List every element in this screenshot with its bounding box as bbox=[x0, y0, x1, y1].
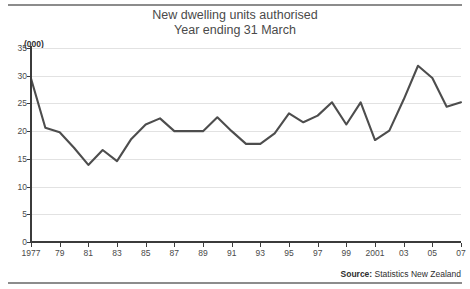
y-axis-tick-label: 20 bbox=[5, 126, 27, 136]
x-axis-tickmark bbox=[375, 243, 376, 247]
y-axis-tick-label: 25 bbox=[5, 98, 27, 108]
x-axis-tick-label: 93 bbox=[256, 248, 265, 258]
x-axis-tickmark bbox=[117, 243, 118, 247]
y-axis-tickmark bbox=[27, 131, 31, 132]
x-axis-tickmark bbox=[432, 243, 433, 247]
y-axis-tickmark bbox=[27, 187, 31, 188]
y-axis-tick-label: 35 bbox=[5, 43, 27, 53]
x-axis-tickmark bbox=[60, 243, 61, 247]
series-polyline bbox=[31, 66, 461, 165]
x-axis-tick-label: 89 bbox=[198, 248, 207, 258]
x-axis-tick-label: 97 bbox=[313, 248, 322, 258]
y-axis-tickmark bbox=[27, 214, 31, 215]
y-axis-tickmark bbox=[27, 76, 31, 77]
x-axis-tick-label: 79 bbox=[55, 248, 64, 258]
y-axis-tick-label: 10 bbox=[5, 182, 27, 192]
x-axis-tickmark bbox=[203, 243, 204, 247]
x-axis-tick-label: 85 bbox=[141, 248, 150, 258]
source-text: Statistics New Zealand bbox=[372, 269, 461, 279]
x-axis-line bbox=[30, 241, 461, 243]
x-axis-tick-label: 07 bbox=[456, 248, 465, 258]
chart-title: New dwelling units authorised Year endin… bbox=[0, 8, 470, 38]
chart-subtitle: Year ending 31 March bbox=[0, 23, 470, 38]
x-axis-tickmark bbox=[404, 243, 405, 247]
x-axis-tickmark bbox=[88, 243, 89, 247]
y-axis-tick-labels: 05101520253035 bbox=[0, 48, 27, 242]
chart-title-line1: New dwelling units authorised bbox=[152, 8, 317, 22]
x-axis-tickmark bbox=[289, 243, 290, 247]
x-axis-tick-label: 91 bbox=[227, 248, 236, 258]
y-axis-tick-label: 0 bbox=[5, 237, 27, 247]
x-axis-tickmark bbox=[346, 243, 347, 247]
y-axis-tick-label: 30 bbox=[5, 71, 27, 81]
x-axis-tick-label: 2001 bbox=[366, 248, 385, 258]
x-axis-tick-label: 81 bbox=[84, 248, 93, 258]
x-axis-tick-label: 87 bbox=[170, 248, 179, 258]
y-axis-tickmark bbox=[27, 159, 31, 160]
x-axis-tickmark bbox=[31, 243, 32, 247]
source-note: Source: Statistics New Zealand bbox=[341, 269, 461, 279]
x-axis-tickmark bbox=[461, 243, 462, 247]
x-axis-tick-label: 1977 bbox=[22, 248, 41, 258]
x-axis-tick-label: 05 bbox=[428, 248, 437, 258]
x-axis-tick-labels: 197779818385878991939597992001030507 bbox=[31, 248, 461, 262]
x-axis-tick-label: 03 bbox=[399, 248, 408, 258]
x-axis-tickmark bbox=[318, 243, 319, 247]
x-axis-tick-label: 99 bbox=[342, 248, 351, 258]
x-axis-tick-label: 83 bbox=[112, 248, 121, 258]
x-axis-tickmark bbox=[146, 243, 147, 247]
x-axis-tick-label: 95 bbox=[284, 248, 293, 258]
plot-area bbox=[31, 48, 461, 242]
x-axis-tickmark bbox=[174, 243, 175, 247]
y-axis-tick-label: 5 bbox=[5, 209, 27, 219]
y-axis-tickmark bbox=[27, 48, 31, 49]
top-divider bbox=[8, 4, 462, 6]
y-axis-tick-label: 15 bbox=[5, 154, 27, 164]
chart-container: New dwelling units authorised Year endin… bbox=[0, 0, 470, 289]
bottom-divider bbox=[8, 282, 462, 284]
x-axis-tickmark bbox=[232, 243, 233, 247]
x-axis-tickmark bbox=[260, 243, 261, 247]
line-series bbox=[31, 48, 461, 242]
source-label: Source: bbox=[341, 269, 373, 279]
y-axis-tickmark bbox=[27, 103, 31, 104]
